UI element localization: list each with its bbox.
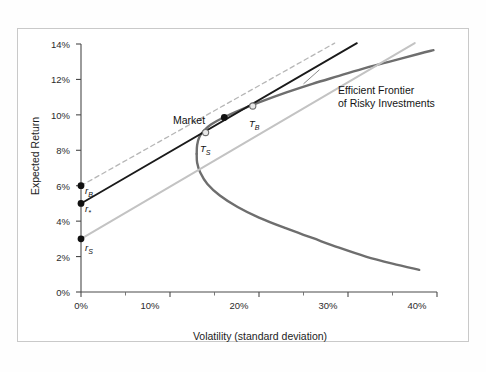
efficient-frontier-annotation: Efficient Frontier of Risky Investments [338, 84, 435, 110]
y-tick-label-14: 14% [34, 39, 70, 50]
series-layer [81, 43, 433, 270]
series-line [81, 43, 415, 239]
data-point-rStar [78, 200, 85, 207]
point-label-rs: rS [85, 242, 93, 255]
point-label-rb: rB [85, 185, 93, 198]
rs-sub: S [88, 248, 93, 255]
x-tick-label-0: 0% [61, 300, 101, 311]
point-label-ts: TS [200, 143, 210, 156]
y-tick-label-4: 4% [34, 216, 70, 227]
x-tick-label-30: 30% [308, 300, 348, 311]
data-point-TB [250, 103, 256, 109]
point-label-tb: TB [249, 118, 259, 131]
chart-canvas [0, 0, 486, 372]
annotation-line-1: Efficient Frontier [338, 84, 435, 97]
rstar-sub: * [88, 209, 91, 216]
data-point-rS [78, 235, 85, 242]
rb-sub: B [88, 191, 93, 198]
ts-sub: S [206, 149, 211, 156]
x-tick-label-40: 40% [397, 300, 437, 311]
point-label-market: Market [173, 114, 205, 126]
tb-sub: B [255, 124, 260, 131]
y-tick-label-2: 2% [34, 252, 70, 263]
axis-lines [81, 44, 437, 292]
x-tick-label-10: 10% [130, 300, 170, 311]
y-tick-label-12: 12% [34, 74, 70, 85]
y-axis-title: Expected Return [29, 96, 41, 216]
x-axis-ticks [81, 292, 437, 297]
x-tick-label-20: 20% [219, 300, 259, 311]
series-line [81, 43, 357, 203]
point-label-rstar: r* [85, 203, 91, 216]
data-point-rB [78, 182, 85, 189]
y-tick-label-0: 0% [34, 287, 70, 298]
data-point-TS [203, 129, 209, 135]
chart-figure: 14% 12% 10% 8% 6% 4% 2% 0% 0% 10% 20% 30… [0, 0, 486, 372]
series-efficient-frontier-lower [197, 154, 420, 270]
x-axis-title: Volatility (standard deviation) [81, 330, 439, 342]
y-axis-ticks [76, 44, 81, 292]
annotation-line-2: of Risky Investments [338, 97, 435, 110]
data-point-Market [221, 114, 228, 121]
